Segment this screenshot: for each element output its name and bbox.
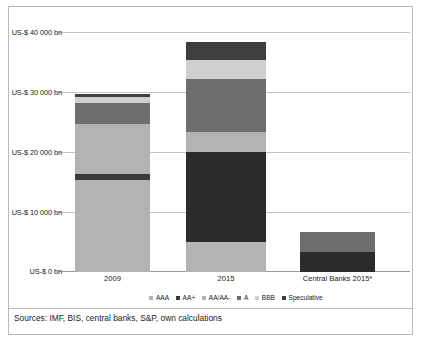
legend-item-bbb[interactable]: BBB	[255, 294, 275, 301]
y-tick-label-20000: US-$ 20 000 bn	[4, 148, 62, 157]
legend-swatch-icon	[149, 296, 153, 300]
legend-item-aaa[interactable]: AAA	[149, 294, 169, 301]
legend-swatch-icon	[237, 296, 241, 300]
y-tickmark-10000	[57, 212, 62, 213]
y-tick-label-40000: US-$ 40 000 bn	[4, 28, 62, 37]
legend-swatch-icon	[176, 296, 180, 300]
bar-2009[interactable]	[75, 94, 150, 272]
bar-central-banks-2015[interactable]	[300, 232, 375, 272]
source-note: Sources: IMF, BIS, central banks, S&P, o…	[14, 313, 222, 323]
bar-segment-aa-aa-minus	[75, 124, 150, 173]
legend-swatch-icon	[282, 296, 286, 300]
bar-segment-aaa	[186, 242, 266, 272]
legend-item-aa-aa-minus[interactable]: AA/AA-	[202, 294, 230, 301]
y-tickmark-0	[57, 271, 62, 272]
chart-figure: US-$ 40 000 bn US-$ 30 000 bn US-$ 20 00…	[0, 0, 423, 345]
x-tick-label-2009: 2009	[75, 274, 150, 283]
legend-label: AA+	[183, 294, 196, 301]
legend-label: A	[244, 294, 248, 301]
bar-2015[interactable]	[186, 42, 266, 272]
y-tick-label-30000: US-$ 30 000 bn	[4, 88, 62, 97]
bar-segment-bbb	[186, 60, 266, 79]
y-tickmark-30000	[57, 92, 62, 93]
bar-segment-aa-plus	[300, 252, 375, 272]
legend-label: Speculative	[289, 294, 323, 301]
bar-segment-a	[75, 103, 150, 125]
x-tick-label-2015: 2015	[186, 274, 266, 283]
plot-area	[62, 32, 410, 272]
y-tickmark-40000	[57, 32, 62, 33]
x-tick-label-central-banks-2015: Central Banks 2015*	[290, 274, 385, 283]
y-tick-label-10000: US-$ 10 000 bn	[4, 208, 62, 217]
legend-swatch-icon	[202, 296, 206, 300]
bar-segment-a	[300, 232, 375, 252]
source-divider	[9, 308, 412, 309]
bar-segment-aa-plus	[186, 152, 266, 242]
y-axis: US-$ 40 000 bn US-$ 30 000 bn US-$ 20 00…	[0, 32, 62, 272]
x-axis: 2009 2015 Central Banks 2015*	[62, 274, 410, 288]
bar-segment-aa-aa-minus	[186, 132, 266, 152]
legend-item-aa-plus[interactable]: AA+	[176, 294, 195, 301]
legend-item-a[interactable]: A	[237, 294, 248, 301]
bar-segment-a	[186, 79, 266, 132]
legend-label: AAA	[156, 294, 169, 301]
bar-segment-aaa	[75, 180, 150, 272]
chart-legend: AAA AA+ AA/AA- A BBB Speculative	[62, 291, 410, 304]
legend-swatch-icon	[255, 296, 259, 300]
legend-item-speculative[interactable]: Speculative	[282, 294, 323, 301]
y-tickmark-20000	[57, 152, 62, 153]
gridline-40000	[62, 32, 410, 33]
legend-label: AA/AA-	[209, 294, 231, 301]
legend-label: BBB	[262, 294, 275, 301]
y-tick-label-0: US-$ 0 bn	[4, 267, 62, 276]
bar-segment-speculative	[186, 42, 266, 60]
